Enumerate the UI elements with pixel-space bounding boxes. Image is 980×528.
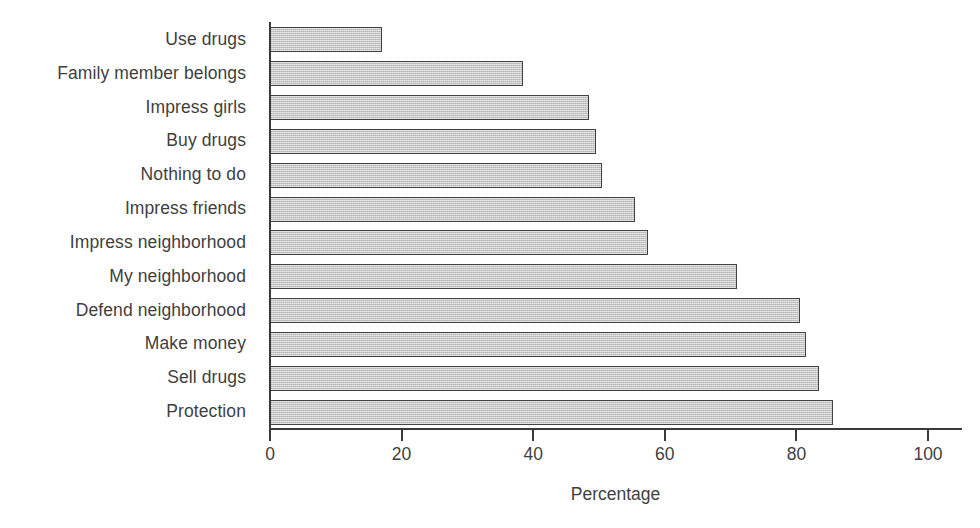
x-tick <box>664 430 666 441</box>
x-tick <box>532 430 534 441</box>
bar <box>270 61 523 86</box>
x-tick-label: 100 <box>913 446 942 464</box>
x-tick-label: 60 <box>655 446 674 464</box>
bar <box>270 366 819 391</box>
category-label: Defend neighborhood <box>0 302 246 320</box>
category-label: Buy drugs <box>0 132 246 150</box>
x-tick <box>269 430 271 441</box>
category-label: Nothing to do <box>0 166 246 184</box>
x-tick-label: 0 <box>265 446 275 464</box>
category-label: Sell drugs <box>0 369 246 387</box>
bar <box>270 264 737 289</box>
category-label: Family member belongs <box>0 65 246 83</box>
bar <box>270 332 806 357</box>
bar <box>270 400 833 425</box>
x-tick-label: 40 <box>523 446 542 464</box>
bar <box>270 298 800 323</box>
x-tick-label: 80 <box>787 446 806 464</box>
category-label: Impress girls <box>0 99 246 117</box>
bar <box>270 163 602 188</box>
bar <box>270 230 648 255</box>
x-tick <box>401 430 403 441</box>
category-label: Protection <box>0 403 246 421</box>
x-tick-label: 20 <box>392 446 411 464</box>
x-axis-title: Percentage <box>269 486 962 504</box>
bar <box>270 129 596 154</box>
category-label: Use drugs <box>0 31 246 49</box>
bars-container <box>270 22 962 428</box>
category-axis-labels: Use drugsFamily member belongsImpress gi… <box>0 22 258 428</box>
category-label: Impress friends <box>0 200 246 218</box>
x-axis-line <box>269 428 962 430</box>
y-axis-line <box>269 22 271 430</box>
category-label: Make money <box>0 335 246 353</box>
bar-chart: Use drugsFamily member belongsImpress gi… <box>0 0 980 528</box>
bar <box>270 95 589 120</box>
bar <box>270 27 382 52</box>
x-tick <box>927 430 929 441</box>
x-tick <box>795 430 797 441</box>
category-label: Impress neighborhood <box>0 234 246 252</box>
bar <box>270 197 635 222</box>
category-label: My neighborhood <box>0 268 246 286</box>
